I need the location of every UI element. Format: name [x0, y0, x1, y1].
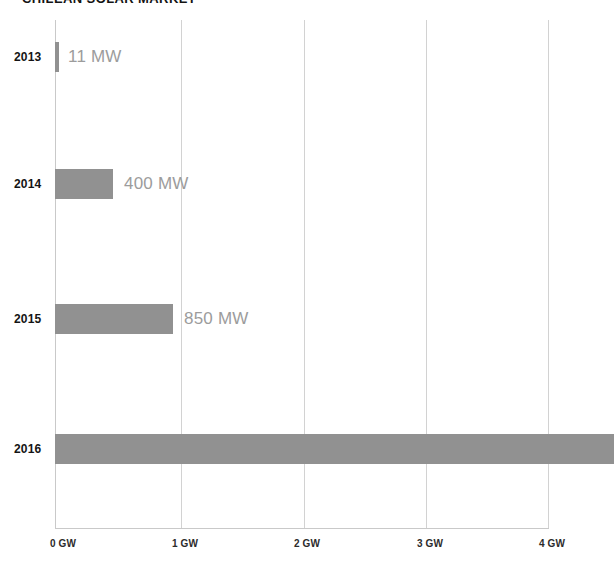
- x-axis-baseline: [55, 528, 549, 529]
- year-label-2013: 2013: [14, 42, 42, 72]
- year-label-2014: 2014: [14, 169, 42, 199]
- year-label-2016: 2016: [14, 434, 42, 464]
- bar-2015: [55, 304, 173, 334]
- bar-value-2013: 11 MW: [68, 42, 122, 72]
- bar-value-2014: 400 MW: [124, 169, 189, 199]
- bar-2014: [55, 169, 113, 199]
- chart-title: CHILEAN SOLAR MARKET: [22, 0, 196, 7]
- tick-label-4gw: 4 GW: [539, 538, 565, 549]
- bar-2013: [55, 42, 59, 72]
- tick-label-1gw: 1 GW: [172, 538, 198, 549]
- tick-label-3gw: 3 GW: [417, 538, 443, 549]
- tick-label-0gw: 0 GW: [50, 538, 76, 549]
- tick-label-2gw: 2 GW: [294, 538, 320, 549]
- bar-2016: [55, 434, 614, 464]
- bar-value-2015: 850 MW: [184, 304, 249, 334]
- year-label-2015: 2015: [14, 304, 42, 334]
- chart-container: CHILEAN SOLAR MARKET 2013 11 MW 2014 400…: [0, 0, 614, 565]
